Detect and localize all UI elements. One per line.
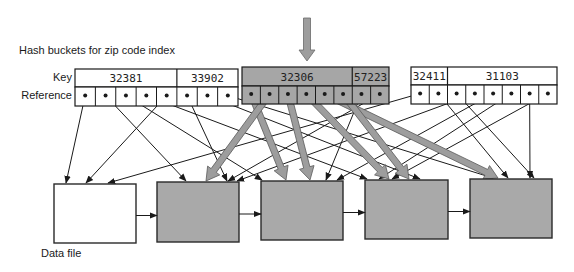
reference-dot [124, 94, 128, 98]
bucket-key: 33902 [191, 72, 224, 85]
diagram-title: Hash buckets for zip code index [19, 44, 175, 56]
reference-dot [268, 92, 272, 96]
bucket-key: 32306 [281, 71, 314, 84]
reference-dot [378, 92, 382, 96]
hash-index-diagram: 323813390232306572233241131103 Hash buck… [0, 0, 574, 272]
reference-dot [359, 92, 363, 96]
highlighted-reference-arrows [206, 91, 498, 181]
bucket-key: 57223 [354, 71, 387, 84]
reference-dot [528, 92, 532, 96]
diagram-canvas: 323813390232306572233241131103 [0, 0, 574, 272]
hash-buckets: 323813390232306572233241131103 [75, 67, 557, 106]
reference-dot [323, 92, 327, 96]
reference-dot [165, 94, 169, 98]
reference-dot [436, 92, 440, 96]
bucket-key: 31103 [486, 70, 519, 83]
reference-dot [418, 92, 422, 96]
reference-dot [341, 92, 345, 96]
reference-dot [249, 92, 253, 96]
reference-dot [473, 92, 477, 96]
data-blocks [54, 179, 552, 243]
hash-bucket: 3238133902 [75, 69, 238, 106]
reference-dot [83, 94, 87, 98]
reference-dot [226, 94, 230, 98]
reference-dot [104, 94, 108, 98]
reference-dot [286, 92, 290, 96]
data-block [54, 184, 136, 243]
down-arrow-icon [299, 18, 315, 61]
reference-dot [509, 92, 513, 96]
reference-dot [546, 92, 550, 96]
hash-bucket: 3230657223 [242, 67, 389, 104]
highlighted-reference-arrow [285, 93, 314, 180]
data-block [470, 179, 552, 238]
reference-dot [144, 94, 148, 98]
hash-bucket: 3241131103 [411, 67, 557, 104]
data-block [365, 180, 448, 239]
reference-dot [491, 92, 495, 96]
bucket-key: 32411 [413, 70, 446, 83]
data-block [157, 182, 239, 242]
data-block [261, 181, 343, 240]
reference-dot [205, 94, 209, 98]
query-arrow [299, 18, 315, 61]
data-file-label: Data file [41, 247, 81, 259]
reference-arrow [66, 96, 85, 184]
reference-dot [185, 94, 189, 98]
bucket-key: 32381 [109, 72, 142, 85]
reference-dot [304, 92, 308, 96]
key-row-label: Key [53, 71, 72, 83]
reference-dot [455, 92, 459, 96]
reference-row-label: Reference [21, 89, 72, 101]
